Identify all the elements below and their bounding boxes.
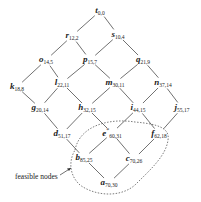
node-letter: m [105, 77, 112, 87]
node-subscript: 21,9 [140, 59, 150, 65]
node-o: o14,5 [39, 55, 53, 66]
node-s: s10,4 [111, 30, 124, 41]
node-subscript: 0,0 [98, 10, 105, 16]
edge-j-f [164, 113, 178, 129]
node-subscript: 14,5 [43, 59, 53, 65]
node-l: l22,11 [55, 78, 70, 89]
edge-m-i [120, 88, 134, 103]
edge-c-a [114, 164, 129, 178]
node-p: p15,7 [83, 55, 97, 66]
edge-r-p [76, 42, 86, 55]
edge-o-l [50, 66, 58, 78]
node-j: j55,17 [175, 103, 190, 114]
node-b: b85,25 [76, 153, 93, 164]
node-q: q21,9 [136, 55, 150, 66]
node-subscript: 51,17 [58, 133, 70, 139]
edge-q-m [120, 64, 137, 78]
edge-n-j [167, 89, 178, 103]
edge-o-k [22, 65, 41, 82]
node-subscript: 18,8 [14, 86, 24, 92]
node-subscript: 20,14 [36, 107, 48, 113]
node-n: n37,14 [154, 78, 171, 89]
node-e: e*60,31 [102, 127, 121, 140]
edge-m-h [92, 88, 110, 104]
node-r: r12,2 [65, 31, 78, 42]
feasible-nodes-label: feasible nodes [15, 172, 58, 181]
node-d: d51,17 [54, 129, 71, 140]
node-subscript: 62,18 [154, 133, 166, 139]
node-subscript: 44,15 [133, 107, 145, 113]
edge-h-d [67, 113, 82, 129]
node-subscript: 10,4 [115, 34, 125, 40]
node-subscript: 37,14 [159, 82, 171, 88]
node-g: g20,14 [32, 103, 49, 114]
node-subscript: 55,17 [177, 107, 189, 113]
node-subscript: 85,25 [80, 157, 92, 163]
node-subscript: 70,26 [130, 158, 142, 164]
node-c: c70,26 [126, 154, 142, 165]
node-h: h32,15 [78, 103, 95, 114]
edge-p-l [67, 64, 84, 78]
node-subscript: 60,31 [109, 133, 121, 139]
edge-s-p [95, 40, 113, 56]
node-a: a70,30 [101, 178, 118, 189]
edge-g-d [45, 113, 58, 128]
edge-e-b [89, 138, 107, 154]
node-subscript: 32,15 [83, 107, 95, 113]
node-subscript: 12,2 [69, 35, 79, 41]
node-subscript: 30,11 [112, 82, 124, 88]
node-t: t0,0 [95, 6, 104, 17]
node-m: m30,11 [105, 78, 124, 89]
edge-t-s [104, 17, 114, 30]
edge-f-c [139, 139, 154, 154]
node-k: k18,8 [10, 82, 24, 93]
edge-t-r [77, 16, 95, 32]
node-i: i44,15 [131, 103, 146, 114]
edge-r-o [51, 41, 67, 56]
edge-layer [22, 16, 178, 178]
edge-l-g [45, 88, 58, 102]
node-subscript: 22,11 [57, 82, 69, 88]
node-subscript: 70,30 [105, 182, 117, 188]
node-subscript: 15,7 [87, 59, 97, 65]
edge-e-c [117, 138, 130, 153]
edge-i-f [142, 113, 154, 128]
edge-n-i [143, 88, 158, 103]
node-f: f62,18 [151, 129, 166, 140]
